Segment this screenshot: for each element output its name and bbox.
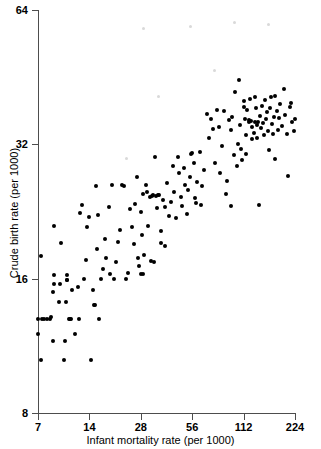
data-point: [261, 121, 265, 125]
data-point: [171, 164, 175, 168]
data-point: [163, 244, 167, 248]
data-point: [188, 175, 192, 179]
data-point: [270, 122, 274, 126]
data-point: [124, 277, 128, 281]
data-point: [190, 151, 194, 155]
data-point: [258, 114, 262, 118]
data-point: [207, 136, 211, 140]
scan-speckle: [157, 95, 160, 98]
data-point: [51, 290, 55, 294]
data-point: [215, 108, 219, 112]
data-point: [130, 225, 134, 229]
x-tick-label-112: 112: [235, 422, 253, 433]
data-point: [141, 272, 145, 276]
x-axis-title: Infant mortality rate (per 1000): [0, 434, 321, 446]
data-point: [222, 109, 226, 113]
data-point: [244, 152, 248, 156]
data-point: [286, 174, 290, 178]
data-point: [194, 201, 198, 205]
data-point: [229, 204, 233, 208]
data-point: [230, 115, 234, 119]
y-tick-16: [32, 279, 38, 280]
data-point: [237, 78, 241, 82]
data-point: [283, 113, 287, 117]
data-point: [157, 193, 161, 197]
data-point: [93, 303, 97, 307]
data-point: [182, 166, 186, 170]
scan-speckle: [189, 25, 192, 28]
data-point: [169, 200, 173, 204]
data-point: [152, 260, 156, 264]
data-point: [63, 339, 67, 343]
data-point: [282, 87, 286, 91]
data-point: [252, 131, 256, 135]
data-point: [52, 282, 56, 286]
data-point: [185, 212, 189, 216]
data-point: [39, 254, 43, 258]
data-point: [101, 267, 105, 271]
data-point: [108, 272, 112, 276]
data-point: [159, 229, 163, 233]
data-point: [118, 228, 122, 232]
y-axis-title: Crude birth rate (per 1000): [8, 113, 20, 313]
data-point: [272, 115, 276, 119]
data-point: [260, 104, 264, 108]
x-tick-label-14: 14: [83, 422, 95, 433]
data-point: [70, 288, 74, 292]
data-point: [73, 332, 77, 336]
data-point: [133, 202, 137, 206]
data-point: [85, 225, 89, 229]
data-point: [176, 155, 180, 159]
data-point: [195, 180, 199, 184]
data-point: [254, 106, 258, 110]
data-point: [292, 129, 296, 133]
data-point: [91, 288, 95, 292]
data-point: [114, 260, 118, 264]
data-point: [273, 94, 277, 98]
data-point: [263, 98, 267, 102]
data-point: [172, 190, 176, 194]
y-tick-64: [32, 10, 38, 11]
data-point: [205, 112, 209, 116]
data-point: [242, 99, 246, 103]
data-point: [177, 171, 181, 175]
x-tick-7: [38, 414, 39, 420]
data-point: [280, 124, 284, 128]
data-point: [236, 142, 240, 146]
data-point: [268, 106, 272, 110]
data-point: [229, 128, 233, 132]
plot-data-area: [38, 10, 295, 413]
data-point: [82, 277, 86, 281]
data-point: [99, 277, 103, 281]
data-point: [135, 175, 139, 179]
data-point: [110, 183, 114, 187]
data-point: [278, 102, 282, 106]
data-point: [146, 224, 150, 228]
data-point: [62, 358, 66, 362]
x-tick-label-28: 28: [135, 422, 147, 433]
data-point: [256, 120, 260, 124]
data-point: [250, 137, 254, 141]
data-point: [167, 214, 171, 218]
scatter-plot-figure: 8163264 7142856112224 Infant mortality r…: [0, 0, 321, 449]
data-point: [232, 153, 236, 157]
data-point: [264, 117, 268, 121]
data-point: [202, 168, 206, 172]
data-point: [238, 123, 242, 127]
data-point: [96, 213, 100, 217]
data-point: [139, 210, 143, 214]
data-point: [257, 203, 261, 207]
scan-speckle: [267, 23, 270, 26]
data-point: [174, 216, 178, 220]
data-point: [80, 203, 84, 207]
x-tick-label-224: 224: [286, 422, 304, 433]
data-point: [183, 183, 187, 187]
data-point: [220, 144, 224, 148]
data-point: [186, 188, 190, 192]
data-point: [233, 90, 237, 94]
scan-speckle: [142, 27, 145, 30]
data-point: [57, 300, 61, 304]
data-point: [180, 204, 184, 208]
data-point: [271, 132, 275, 136]
data-point: [69, 317, 73, 321]
